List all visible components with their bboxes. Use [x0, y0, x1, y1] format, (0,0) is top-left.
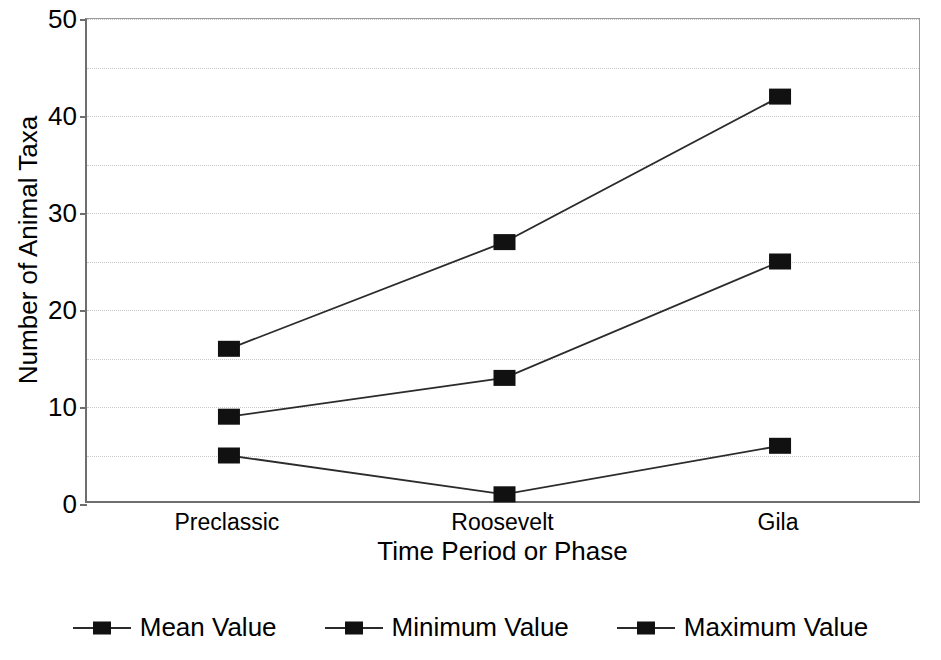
y-tick-label: 0	[63, 489, 77, 520]
legend-label: Minimum Value	[392, 612, 569, 643]
data-series	[218, 254, 791, 425]
legend-marker-icon	[325, 617, 383, 639]
series-line	[229, 262, 780, 417]
plot-area: 01020304050	[85, 18, 920, 503]
legend-item: Minimum Value	[325, 612, 569, 643]
data-point-marker	[494, 486, 516, 502]
legend-item: Maximum Value	[617, 612, 868, 643]
y-tick-label: 30	[48, 198, 77, 229]
chart-legend: Mean ValueMinimum ValueMaximum Value	[0, 612, 941, 643]
x-tick-label: Gila	[758, 509, 799, 536]
series-layer	[87, 19, 922, 504]
y-tick-label: 10	[48, 392, 77, 423]
series-line	[229, 97, 780, 349]
legend-item: Mean Value	[73, 612, 277, 643]
y-tick-label: 40	[48, 101, 77, 132]
x-axis-title: Time Period or Phase	[85, 536, 920, 567]
data-point-marker	[494, 370, 516, 386]
y-tick-label: 20	[48, 295, 77, 326]
chart-figure: Number of Animal Taxa 01020304050 Precla…	[0, 0, 941, 660]
data-point-marker	[218, 409, 240, 425]
data-point-marker	[218, 341, 240, 357]
y-tick-mark	[80, 213, 87, 215]
y-tick-mark	[80, 19, 87, 21]
x-tick-label: Roosevelt	[451, 509, 553, 536]
data-series	[218, 438, 791, 503]
y-tick-mark	[80, 116, 87, 118]
data-point-marker	[494, 234, 516, 250]
y-tick-mark	[80, 310, 87, 312]
y-axis-title: Number of Animal Taxa	[8, 0, 48, 500]
legend-label: Mean Value	[140, 612, 277, 643]
y-tick-mark	[80, 504, 87, 506]
legend-square-icon	[637, 621, 655, 634]
data-point-marker	[769, 254, 791, 270]
data-point-marker	[769, 89, 791, 105]
data-series	[218, 89, 791, 357]
legend-label: Maximum Value	[684, 612, 868, 643]
data-point-marker	[218, 448, 240, 464]
legend-marker-icon	[73, 617, 131, 639]
legend-square-icon	[345, 621, 363, 634]
x-tick-label: Preclassic	[175, 509, 280, 536]
y-tick-mark	[80, 407, 87, 409]
data-point-marker	[769, 438, 791, 454]
legend-marker-icon	[617, 617, 675, 639]
y-tick-label: 50	[48, 4, 77, 35]
legend-square-icon	[93, 621, 111, 634]
